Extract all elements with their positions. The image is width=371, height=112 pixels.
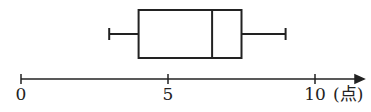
axis-arrow-icon xyxy=(355,75,364,83)
box-plot xyxy=(109,10,285,58)
tick-label: 0 xyxy=(16,86,27,103)
tick-label: 10 xyxy=(304,86,326,103)
x-axis xyxy=(21,74,364,84)
tick-label: 5 xyxy=(163,86,174,103)
iqr-box xyxy=(139,10,242,58)
unit-label: (点) xyxy=(333,86,363,103)
